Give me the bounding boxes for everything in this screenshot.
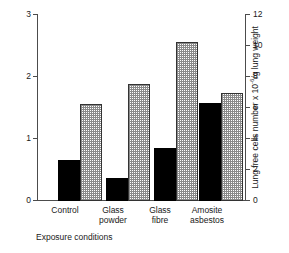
bar-surfactant-amosite-asbestos: [199, 103, 221, 201]
category-label-amosite-asbestos-line1: Amosite: [192, 205, 223, 215]
left-tick-label-2: 2: [26, 72, 31, 81]
bar-freecells-glass-fibre: [176, 42, 198, 201]
category-label-amosite-asbestos: Amositeasbestos: [176, 205, 238, 225]
y-axis-label-right: Lung free cells number x 10-6/g lung wei…: [248, 14, 262, 201]
category-label-glass-powder-line2: powder: [99, 215, 127, 225]
bar-surfactant-glass-powder: [106, 178, 128, 201]
x-axis-label: Exposure conditions: [36, 232, 113, 242]
bar-freecells-control: [80, 104, 102, 201]
plot-area: 3 2 1 0 12 10 8 6 4 2 0: [37, 14, 246, 201]
category-label-glass-powder-line1: Glass: [102, 205, 124, 215]
category-label-glass-fibre-line1: Glass: [149, 205, 171, 215]
left-tick-label-0: 0: [26, 196, 31, 205]
left-tick-label-1: 1: [26, 134, 31, 143]
y-axis-label-right-post: /g lung weight: [250, 26, 260, 78]
bar-freecells-glass-powder: [128, 84, 150, 201]
category-label-amosite-asbestos-line2: asbestos: [190, 215, 224, 225]
bar-surfactant-control: [58, 160, 80, 201]
bar-freecells-amosite-asbestos: [221, 93, 243, 201]
y-axis-label-right-exponent: -6: [249, 79, 255, 84]
bars-layer: [37, 14, 246, 201]
chart-figure: 3 2 1 0 12 10 8 6 4 2 0: [0, 0, 289, 253]
y-axis-label-right-pre: Lung free cells number x 10: [250, 84, 260, 189]
category-label-glass-fibre-line2: fibre: [152, 215, 169, 225]
left-tick-label-3: 3: [26, 10, 31, 19]
bar-surfactant-glass-fibre: [154, 148, 176, 201]
